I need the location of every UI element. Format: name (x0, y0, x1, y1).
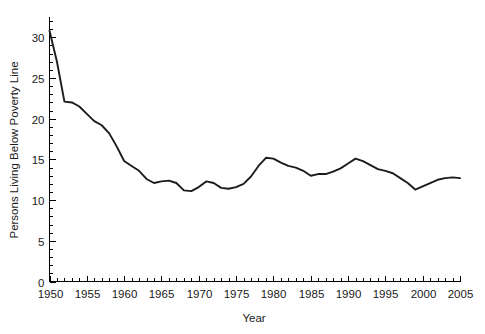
x-tick-label: 1975 (224, 288, 250, 300)
x-tick-label: 1960 (112, 288, 138, 300)
y-axis-tick-labels: 051015202530 (32, 32, 45, 289)
y-axis-minor-ticks (50, 22, 54, 274)
x-tick-label: 1950 (38, 288, 64, 300)
y-tick-label: 10 (32, 195, 45, 207)
chart-canvas: 1950195519601965197019751980198519901995… (0, 0, 485, 334)
x-axis-title: Year (242, 312, 265, 324)
x-tick-label: 1995 (373, 288, 399, 300)
x-tick-label: 2000 (411, 288, 437, 300)
x-tick-label: 1970 (187, 288, 213, 300)
x-axis-tick-labels: 1950195519601965197019751980198519901995… (38, 288, 474, 300)
y-tick-label: 30 (32, 32, 45, 44)
x-tick-label: 1990 (336, 288, 362, 300)
y-axis-major-ticks (50, 38, 56, 283)
poverty-line-chart: 1950195519601965197019751980198519901995… (0, 0, 485, 334)
y-tick-label: 25 (32, 73, 45, 85)
poverty-rate-series-line (50, 31, 461, 191)
x-tick-label: 1955 (75, 288, 101, 300)
y-tick-label: 5 (38, 236, 44, 248)
x-tick-label: 1985 (299, 288, 325, 300)
y-axis-title: Persons Living Below Poverty Line (8, 61, 20, 238)
x-tick-label: 2005 (448, 288, 474, 300)
y-tick-label: 20 (32, 114, 45, 126)
x-tick-label: 1980 (261, 288, 287, 300)
y-tick-label: 0 (38, 277, 44, 289)
y-tick-label: 15 (32, 154, 45, 166)
x-axis-minor-ticks (58, 278, 454, 282)
x-axis-major-ticks (51, 276, 461, 282)
x-tick-label: 1965 (149, 288, 175, 300)
